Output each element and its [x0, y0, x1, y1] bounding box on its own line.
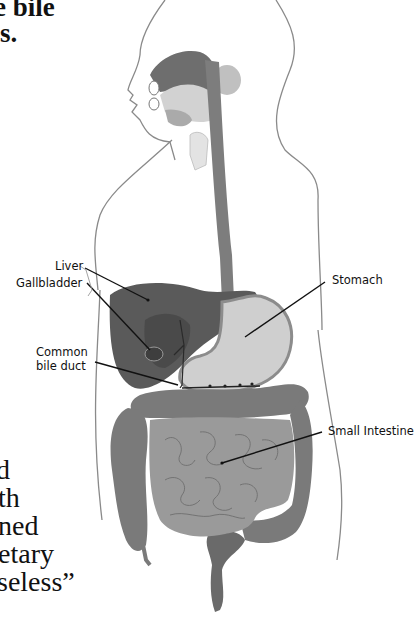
transverse-colon	[131, 384, 309, 418]
esophagus	[205, 60, 234, 302]
head-structures	[149, 51, 241, 170]
gallbladder	[145, 347, 163, 361]
label-liver: Liver	[55, 259, 83, 273]
rectum	[207, 531, 245, 612]
label-common-bile-duct-line2: bile duct	[36, 359, 86, 373]
label-stomach: Stomach	[332, 273, 383, 287]
label-small-intestine: Small Intestine	[328, 424, 414, 438]
ascending-colon	[111, 408, 148, 551]
label-gallbladder: Gallbladder	[16, 276, 82, 290]
label-common-bile-duct-line1: Common	[36, 345, 88, 359]
